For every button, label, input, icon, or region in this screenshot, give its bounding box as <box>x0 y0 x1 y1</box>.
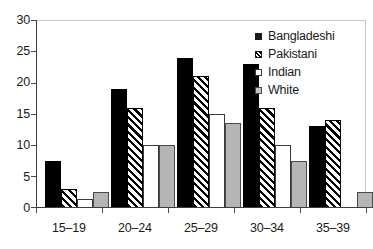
bar-pakistani-25-29 <box>193 76 209 208</box>
legend-swatch-pakistani-icon <box>255 51 262 58</box>
bar-white-20-24 <box>159 145 175 208</box>
bar-white-30-34 <box>291 161 307 208</box>
y-axis: 30 25 20 15 10 5 0 <box>0 0 30 249</box>
x-category-label-25-29: 25–29 <box>168 222 234 235</box>
bar-pakistani-35-39 <box>325 120 341 208</box>
bar-white-25-29 <box>225 123 241 208</box>
bar-bangladeshi-35-39 <box>309 126 325 208</box>
y-tick-label-5: 5 <box>2 171 30 184</box>
legend-item-white: White <box>252 81 362 99</box>
legend-label-bangladeshi: Bangladeshi <box>268 27 335 45</box>
x-tick-mark-4 <box>300 208 301 213</box>
bar-bangladeshi-20-24 <box>111 89 127 208</box>
y-tick-label-0: 0 <box>2 202 30 215</box>
x-category-label-30-34: 30–34 <box>234 222 300 235</box>
x-tick-mark-0 <box>36 208 37 213</box>
legend-swatch-white-icon <box>255 87 262 94</box>
bar-white-15-19 <box>93 192 109 208</box>
bar-indian-20-24 <box>143 145 159 208</box>
y-tick-label-15: 15 <box>2 108 30 121</box>
x-tick-mark-3 <box>234 208 235 213</box>
bar-indian-25-29 <box>209 114 225 208</box>
y-tick-label-30: 30 <box>2 14 30 27</box>
x-category-label-15-19: 15–19 <box>36 222 102 235</box>
bar-bangladeshi-25-29 <box>177 58 193 208</box>
legend-item-pakistani: Pakistani <box>252 45 362 63</box>
bar-pakistani-15-19 <box>61 189 77 208</box>
legend-item-bangladeshi: Bangladeshi <box>252 27 362 45</box>
y-tick-label-20: 20 <box>2 76 30 89</box>
legend-item-indian: Indian <box>252 63 362 81</box>
x-tick-mark-1 <box>102 208 103 213</box>
x-category-label-35-39: 35–39 <box>300 222 366 235</box>
legend-swatch-bangladeshi-icon <box>255 33 262 40</box>
legend-label-white: White <box>268 81 299 99</box>
bar-pakistani-30-34 <box>259 108 275 208</box>
x-tick-mark-5 <box>366 208 367 213</box>
y-tick-label-10: 10 <box>2 139 30 152</box>
legend-label-pakistani: Pakistani <box>268 45 317 63</box>
chart-legend: Bangladeshi Pakistani Indian White <box>252 27 362 99</box>
x-axis-line <box>36 207 366 208</box>
bar-pakistani-20-24 <box>127 108 143 208</box>
y-tick-label-25: 25 <box>2 45 30 58</box>
legend-label-indian: Indian <box>268 63 301 81</box>
bar-indian-30-34 <box>275 145 291 208</box>
bar-white-35-39 <box>357 192 373 208</box>
legend-swatch-indian-icon <box>255 69 262 76</box>
x-category-label-20-24: 20–24 <box>102 222 168 235</box>
x-tick-mark-2 <box>168 208 169 213</box>
bar-bangladeshi-15-19 <box>45 161 61 208</box>
